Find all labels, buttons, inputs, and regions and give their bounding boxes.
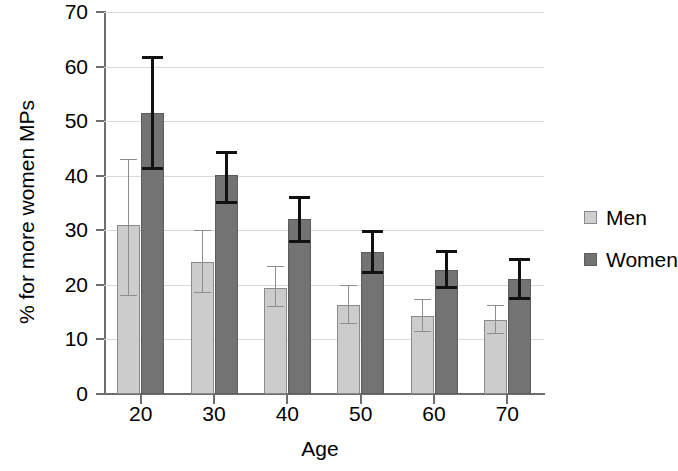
- gridline-40: [104, 176, 544, 177]
- error-bar-stem: [151, 56, 154, 171]
- error-bar-cap-upper: [509, 258, 530, 261]
- error-bar-women-30: [215, 151, 238, 204]
- bar-chart: % for more women MPs 010203040506070 203…: [0, 0, 678, 471]
- gridline-20: [104, 285, 544, 286]
- error-bar-cap-lower: [487, 333, 504, 334]
- bar-women-30: [215, 175, 238, 394]
- gridline-70: [104, 12, 544, 13]
- y-tick-label-40: 40: [42, 165, 88, 186]
- error-bar-women-50: [361, 230, 384, 274]
- error-bar-cap-upper: [436, 250, 457, 253]
- error-bar-cap-upper: [362, 230, 383, 233]
- error-bar-cap-lower: [120, 295, 137, 296]
- x-tick-label-40: 40: [257, 402, 317, 426]
- error-bar-stem: [518, 258, 521, 300]
- error-bar-women-60: [435, 250, 458, 288]
- plot-area: [104, 12, 544, 394]
- y-tick-label-30: 30: [42, 219, 88, 240]
- error-bar-stem: [128, 159, 129, 295]
- y-tick-label-0: 0: [42, 383, 88, 404]
- error-bar-cap-upper: [142, 56, 163, 59]
- y-axis-tick-labels: 010203040506070: [36, 0, 88, 420]
- error-bar-stem: [225, 151, 228, 204]
- legend-swatch-women-icon: [584, 253, 597, 266]
- error-bar-stem: [371, 230, 374, 274]
- x-tick-label-50: 50: [331, 402, 391, 426]
- error-bar-stem: [495, 305, 496, 334]
- error-bar-stem: [202, 230, 203, 293]
- x-tick-label-60: 60: [404, 402, 464, 426]
- y-tick-label-70: 70: [42, 1, 88, 22]
- y-tick-label-10: 10: [42, 328, 88, 349]
- error-bar-cap-lower: [267, 306, 284, 307]
- error-bar-cap-upper: [340, 285, 357, 286]
- x-tick-label-70: 70: [477, 402, 537, 426]
- error-bar-stem: [445, 250, 448, 288]
- error-bar-men-40: [264, 266, 287, 306]
- legend-label-women: Women: [606, 247, 678, 273]
- error-bar-men-50: [337, 285, 360, 324]
- error-bar-cap-upper: [194, 230, 211, 231]
- error-bar-cap-lower: [340, 323, 357, 324]
- error-bar-cap-lower: [362, 271, 383, 274]
- error-bar-cap-upper: [120, 159, 137, 160]
- error-bar-stem: [298, 196, 301, 242]
- error-bar-men-60: [411, 299, 434, 332]
- error-bar-stem: [275, 266, 276, 306]
- error-bar-cap-lower: [436, 286, 457, 289]
- error-bar-cap-lower: [414, 331, 431, 332]
- error-bar-cap-upper: [414, 299, 431, 300]
- error-bar-women-20: [141, 56, 164, 171]
- error-bar-women-70: [508, 258, 531, 300]
- error-bar-cap-lower: [216, 201, 237, 204]
- error-bar-women-40: [288, 196, 311, 242]
- legend-swatch-men-icon: [584, 211, 597, 224]
- gridline-30: [104, 230, 544, 231]
- error-bar-stem: [348, 285, 349, 324]
- error-bar-cap-upper: [289, 196, 310, 199]
- legend-label-men: Men: [606, 205, 647, 231]
- error-bar-cap-upper: [267, 266, 284, 267]
- y-tick-label-60: 60: [42, 56, 88, 77]
- error-bar-men-70: [484, 305, 507, 334]
- error-bar-cap-lower: [509, 297, 530, 300]
- x-tick-label-30: 30: [184, 402, 244, 426]
- gridline-60: [104, 67, 544, 68]
- error-bar-stem: [422, 299, 423, 332]
- y-tick-label-20: 20: [42, 274, 88, 295]
- error-bar-men-30: [191, 230, 214, 293]
- bar-women-40: [288, 219, 311, 394]
- x-axis-title: Age: [97, 437, 543, 461]
- error-bar-cap-lower: [142, 167, 163, 170]
- error-bar-men-20: [117, 159, 140, 295]
- y-tick-label-50: 50: [42, 110, 88, 131]
- error-bar-cap-lower: [194, 292, 211, 293]
- error-bar-cap-lower: [289, 240, 310, 243]
- gridline-10: [104, 339, 544, 340]
- gridline-50: [104, 121, 544, 122]
- error-bar-cap-upper: [216, 151, 237, 154]
- error-bar-cap-upper: [487, 305, 504, 306]
- x-tick-label-20: 20: [111, 402, 171, 426]
